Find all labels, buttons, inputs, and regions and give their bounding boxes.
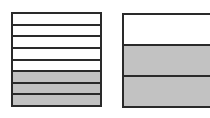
shaded-part [124,44,210,75]
unshaded-part [13,14,100,24]
shaded-part [13,82,100,94]
unshaded-part [13,47,100,59]
unshaded-part [13,24,100,36]
fraction-bar-thirds [122,13,210,108]
shaded-part [13,70,100,82]
unshaded-part [124,15,210,44]
unshaded-part [13,35,100,47]
shaded-part [13,93,100,105]
fraction-bar-eighths [11,12,102,107]
shaded-part [124,75,210,106]
unshaded-part [13,59,100,71]
